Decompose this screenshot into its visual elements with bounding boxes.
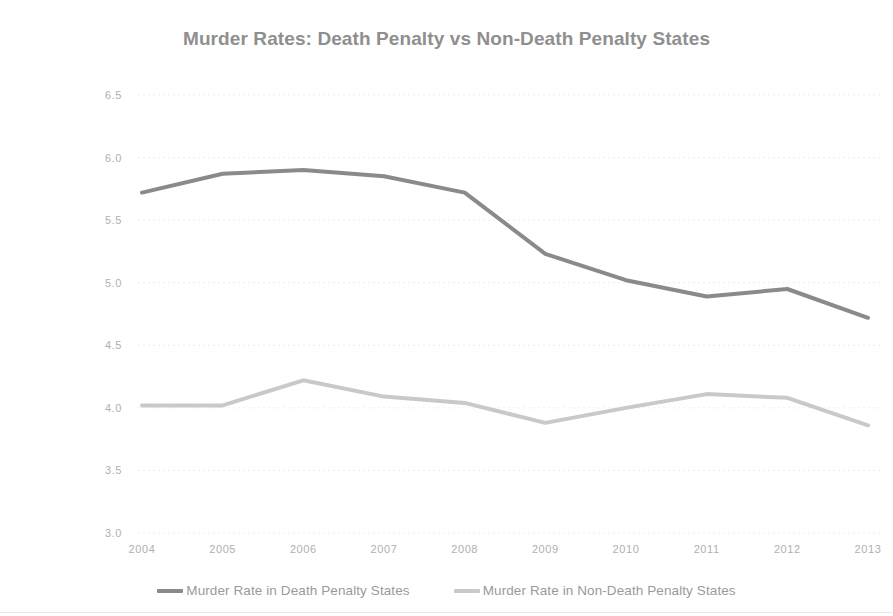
chart-legend: Murder Rate in Death Penalty StatesMurde… [0, 583, 893, 598]
series-line [142, 380, 868, 425]
x-tick-label: 2012 [774, 543, 801, 555]
legend-swatch-icon [157, 589, 183, 593]
bottom-divider [0, 612, 893, 613]
gridlines [138, 95, 880, 533]
x-tick-label: 2013 [855, 543, 882, 555]
x-tick-label: 2008 [451, 543, 478, 555]
legend-label: Murder Rate in Non-Death Penalty States [483, 583, 736, 598]
y-tick-label: 5.5 [105, 214, 122, 226]
y-tick-label: 3.5 [105, 464, 122, 476]
legend-entry[interactable]: Murder Rate in Non-Death Penalty States [454, 583, 736, 598]
x-tick-label: 2011 [694, 543, 720, 555]
x-tick-label: 2005 [209, 543, 236, 555]
x-tick-label: 2006 [290, 543, 317, 555]
legend-swatch-icon [454, 589, 480, 593]
plot-area: 6.56.05.55.04.54.03.53.0 200420052006200… [0, 0, 893, 616]
x-tick-label: 2010 [613, 543, 640, 555]
y-axis-tick-labels: 6.56.05.55.04.54.03.53.0 [105, 89, 122, 539]
chart-figure: Murder Rates: Death Penalty vs Non-Death… [0, 0, 893, 616]
y-tick-label: 6.0 [105, 152, 122, 164]
y-tick-label: 5.0 [105, 277, 122, 289]
x-axis-tick-labels: 2004200520062007200820092010201120122013 [129, 543, 882, 555]
x-tick-label: 2009 [532, 543, 559, 555]
x-tick-label: 2007 [371, 543, 398, 555]
series-line [142, 170, 868, 318]
x-tick-label: 2004 [129, 543, 156, 555]
legend-entry[interactable]: Murder Rate in Death Penalty States [157, 583, 409, 598]
y-tick-label: 4.0 [105, 402, 122, 414]
y-tick-label: 3.0 [105, 527, 122, 539]
y-tick-label: 4.5 [105, 339, 122, 351]
data-series [142, 170, 868, 425]
legend-label: Murder Rate in Death Penalty States [186, 583, 409, 598]
y-tick-label: 6.5 [105, 89, 122, 101]
